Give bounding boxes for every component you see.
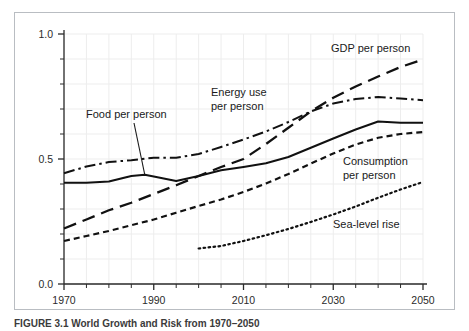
x-axis-tick-label: 1970 (52, 294, 76, 306)
gdp-per-person-label: GDP per person (331, 42, 410, 54)
y-axis-tick-label: 0.0 (38, 278, 53, 290)
line-chart: 0.00.51.019701990201020302050 Food per p… (15, 13, 454, 309)
annotation-layer: Food per personEnergy useper personGDP p… (86, 42, 410, 230)
x-axis-tick-label: 2010 (232, 294, 256, 306)
figure-root: 0.00.51.019701990201020302050 Food per p… (0, 0, 469, 331)
y-axis-tick-label: 0.5 (38, 153, 53, 165)
x-axis-tick-label: 2030 (322, 294, 346, 306)
food-per-person-label: Food per person (86, 108, 167, 120)
consumption-label: Consumptionper person (343, 155, 408, 181)
food-per-person-leader-line (134, 123, 145, 175)
y-axis-tick-label: 1.0 (38, 28, 53, 40)
x-axis-tick-label: 2050 (411, 294, 435, 306)
figure-caption: FIGURE 3.1 World Growth and Risk from 19… (14, 318, 455, 329)
chart-frame: 0.00.51.019701990201020302050 Food per p… (14, 12, 455, 310)
x-axis-tick-label: 1990 (142, 294, 166, 306)
energy-use-label: Energy useper person (211, 86, 267, 112)
sea-level-rise-label: Sea-level rise (333, 218, 400, 230)
